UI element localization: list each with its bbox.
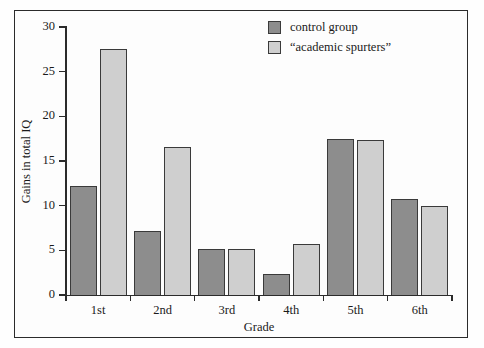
bar-2nd-academic-spurters <box>164 147 191 295</box>
bar-6th-control-group <box>391 199 418 295</box>
bar-3rd-control-group <box>198 249 225 295</box>
bar-4th-academic-spurters <box>293 244 320 295</box>
x-tick-label-5th: 5th <box>326 303 386 317</box>
y-tick-label-text: 5 <box>25 243 55 256</box>
x-axis-title: Grade <box>65 320 453 334</box>
x-tick-label-1st: 1st <box>68 303 128 317</box>
x-tick-label-6th: 6th <box>390 303 450 317</box>
plot-area: 051015202530 1st2nd3rd4th5th6th Gains in… <box>0 0 484 348</box>
x-tick-0 <box>65 295 67 301</box>
y-tick-15 <box>59 160 66 162</box>
y-tick-label-text: 0 <box>25 288 55 301</box>
legend-item-academic-spurters: “academic spurters” <box>268 38 448 56</box>
legend-swatch-icon-academic-spurters <box>268 41 281 54</box>
y-tick-5 <box>59 250 66 252</box>
bar-4th-control-group <box>263 274 290 295</box>
bar-5th-control-group <box>327 139 354 295</box>
chart-figure: 051015202530 1st2nd3rd4th5th6th Gains in… <box>0 0 484 348</box>
y-tick-10 <box>59 205 66 207</box>
y-tick-label-0: 0 <box>22 288 55 301</box>
y-tick-label-25: 25 <box>22 65 55 78</box>
legend-swatch-icon-control-group <box>268 21 281 34</box>
x-tick-6 <box>451 295 453 301</box>
bar-3rd-academic-spurters <box>228 249 255 295</box>
y-tick-30 <box>59 26 66 28</box>
y-axis-title: Gains in total IQ <box>20 92 33 232</box>
x-tick-4 <box>323 295 325 301</box>
bar-1st-academic-spurters <box>100 49 127 295</box>
x-tick-label-3rd: 3rd <box>197 303 257 317</box>
legend-item-control-group: control group <box>268 18 448 36</box>
bar-5th-academic-spurters <box>357 140 384 295</box>
chart-legend: control group “academic spurters” <box>268 18 448 58</box>
bar-2nd-control-group <box>134 231 161 295</box>
y-tick-20 <box>59 116 66 118</box>
y-tick-25 <box>59 71 66 73</box>
bar-1st-control-group <box>70 186 97 295</box>
y-tick-label-30: 30 <box>22 20 55 33</box>
bar-6th-academic-spurters <box>421 206 448 295</box>
legend-label-control-group: control group <box>290 20 358 34</box>
x-tick-1 <box>130 295 132 301</box>
x-tick-2 <box>194 295 196 301</box>
y-tick-label-text: 30 <box>25 20 55 33</box>
y-tick-label-5: 5 <box>22 243 55 256</box>
legend-label-academic-spurters: “academic spurters” <box>290 40 391 54</box>
x-tick-label-2nd: 2nd <box>133 303 193 317</box>
y-tick-label-text: 25 <box>25 65 55 78</box>
x-tick-label-4th: 4th <box>261 303 321 317</box>
x-tick-5 <box>387 295 389 301</box>
x-tick-3 <box>258 295 260 301</box>
